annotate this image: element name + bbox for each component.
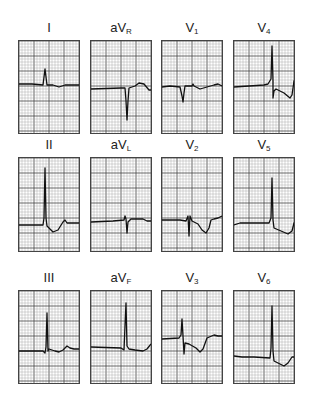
ecg-grid-panel xyxy=(233,290,295,384)
ecg-grid-panel xyxy=(233,40,295,134)
lead-label: V5 xyxy=(233,137,295,153)
lead-label: II xyxy=(18,137,80,153)
ecg-trace-svg xyxy=(234,158,294,251)
lead-label-text: aV xyxy=(110,20,126,35)
lead-label-subscript: 3 xyxy=(194,277,198,286)
lead-label-subscript: R xyxy=(126,27,132,36)
lead-label-subscript: F xyxy=(127,277,132,286)
ecg-trace-svg xyxy=(91,41,151,133)
lead-label-text: V xyxy=(185,270,194,285)
ecg-trace-svg xyxy=(234,41,294,133)
ecg-grid-panel xyxy=(18,157,80,252)
ecg-trace-svg xyxy=(162,158,222,251)
ecg-trace-svg xyxy=(162,291,222,383)
lead-label-text: III xyxy=(44,270,55,285)
ecg-trace-svg xyxy=(91,291,151,383)
lead-label-subscript: 2 xyxy=(194,144,198,153)
ecg-trace-svg xyxy=(19,41,79,133)
ecg-grid-panel xyxy=(90,290,152,384)
ecg-grid-panel xyxy=(90,40,152,134)
lead-label-text: aV xyxy=(111,270,127,285)
lead-label: aVR xyxy=(90,20,152,36)
ecg-trace-svg xyxy=(91,158,151,251)
lead-label-subscript: L xyxy=(127,144,131,153)
ecg-grid-panel xyxy=(18,290,80,384)
ecg-trace-svg xyxy=(19,291,79,383)
lead-label: V6 xyxy=(233,270,295,286)
lead-label-subscript: 6 xyxy=(266,277,270,286)
lead-label: I xyxy=(18,20,80,36)
ecg-grid-panel xyxy=(18,40,80,134)
lead-label-text: V xyxy=(257,20,266,35)
ecg-grid-panel xyxy=(161,157,223,252)
lead-label-subscript: 1 xyxy=(194,27,198,36)
lead-label-subscript: 5 xyxy=(266,144,270,153)
ecg-grid-panel xyxy=(90,157,152,252)
lead-label-text: V xyxy=(257,270,266,285)
lead-label-text: V xyxy=(185,20,194,35)
ecg-grid-panel xyxy=(161,290,223,384)
lead-label-text: aV xyxy=(111,137,127,152)
lead-label: V3 xyxy=(161,270,223,286)
ecg-trace-svg xyxy=(162,41,222,133)
lead-label: aVL xyxy=(90,137,152,153)
lead-label: V4 xyxy=(233,20,295,36)
ecg-grid-panel xyxy=(233,157,295,252)
lead-label-subscript: 4 xyxy=(266,27,270,36)
lead-label-text: V xyxy=(185,137,194,152)
lead-label: V1 xyxy=(161,20,223,36)
lead-label: aVF xyxy=(90,270,152,286)
ecg-grid-panel xyxy=(161,40,223,134)
lead-label: III xyxy=(18,270,80,286)
ecg-trace-svg xyxy=(19,158,79,251)
ecg-trace-svg xyxy=(234,291,294,383)
lead-label-text: I xyxy=(47,20,51,35)
lead-label-text: II xyxy=(45,137,52,152)
lead-label: V2 xyxy=(161,137,223,153)
lead-label-text: V xyxy=(257,137,266,152)
